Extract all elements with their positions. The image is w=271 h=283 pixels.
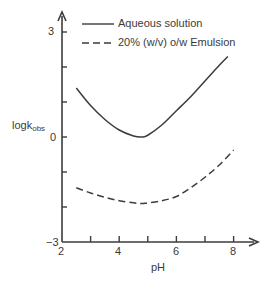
y-tick-label-0: 0: [50, 132, 56, 143]
x-axis-label: pH: [151, 262, 165, 273]
legend-label-aqueous: Aqueous solution: [118, 18, 202, 29]
x-tick-label-4: 4: [115, 246, 121, 257]
y-tick-label-3: 3: [48, 26, 54, 37]
x-tick-label-8: 8: [230, 246, 236, 257]
series-aqueous-line: [76, 57, 228, 138]
y-axis-label-subscript: obs: [32, 124, 45, 133]
x-tick-label-2: 2: [58, 246, 64, 257]
series-emulsion-line: [76, 150, 233, 204]
x-tick-label-6: 6: [173, 246, 179, 257]
y-axis-label-main: logk: [12, 119, 32, 131]
legend-label-emulsion: 20% (w/v) o/w Emulsion: [118, 37, 235, 48]
y-tick-label-neg3: −3: [46, 237, 59, 248]
y-axis-label: logkobs: [12, 119, 45, 133]
